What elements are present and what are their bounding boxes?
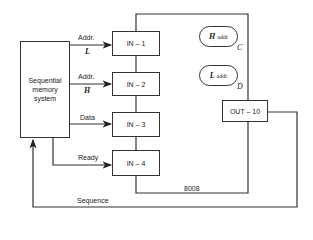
signal-label-ready: Ready bbox=[78, 154, 98, 162]
register-d-label: D bbox=[237, 82, 243, 91]
signal-label-addr-h: Addr. bbox=[78, 73, 94, 81]
signal-label-data: Data bbox=[80, 114, 95, 122]
memory-label-line3: system bbox=[34, 94, 56, 103]
input-port-1-label: IN – 1 bbox=[127, 40, 146, 47]
output-port-10: OUT – 10 bbox=[222, 100, 268, 122]
register-l-addr: L addr bbox=[199, 65, 238, 86]
register-l-suffix: addr bbox=[217, 73, 228, 79]
output-port-label: OUT – 10 bbox=[230, 108, 260, 115]
register-h-addr: H addr bbox=[199, 26, 238, 47]
input-port-1: IN – 1 bbox=[112, 31, 160, 56]
input-port-3-label: IN – 3 bbox=[127, 121, 146, 128]
input-port-4-label: IN – 4 bbox=[127, 160, 146, 167]
memory-label-line1: Sequential bbox=[28, 76, 61, 85]
input-port-3: IN – 3 bbox=[112, 112, 160, 137]
signal-label-addr-l: Addr. bbox=[78, 34, 94, 42]
register-h-suffix: addr bbox=[217, 34, 228, 40]
sequence-label: Sequence bbox=[77, 197, 109, 205]
register-h-name: H bbox=[209, 32, 215, 41]
signal-sub-l: L bbox=[85, 48, 90, 56]
register-l-name: L bbox=[210, 71, 215, 80]
sequential-memory-system: Sequential memory system bbox=[20, 41, 70, 138]
input-port-4: IN – 4 bbox=[112, 150, 160, 176]
input-port-2-label: IN – 2 bbox=[127, 81, 146, 88]
chip-label-8008: 8008 bbox=[184, 185, 200, 193]
input-port-2: IN – 2 bbox=[112, 72, 160, 96]
signal-sub-h: H bbox=[84, 87, 90, 95]
memory-label-line2: memory bbox=[32, 85, 57, 94]
register-c-label: C bbox=[237, 43, 242, 52]
